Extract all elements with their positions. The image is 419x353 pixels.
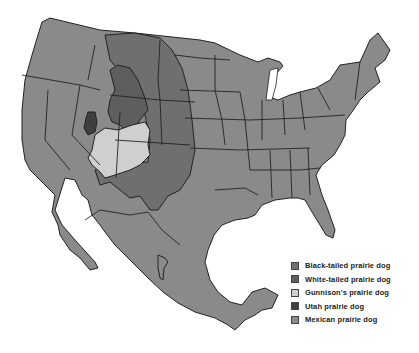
legend-label: Mexican prairie dog <box>305 315 377 324</box>
legend-label: Gunnison's prairie dog <box>305 288 389 297</box>
mexican-swatch <box>291 316 299 324</box>
legend-item-white-tailed: White-tailed prairie dog <box>291 273 391 287</box>
legend-label: White-tailed prairie dog <box>305 275 391 284</box>
map-legend: Black-tailed prairie dog White-tailed pr… <box>291 259 391 327</box>
black-tailed-swatch <box>291 262 299 270</box>
legend-item-utah: Utah prairie dog <box>291 300 391 314</box>
legend-item-mexican: Mexican prairie dog <box>291 313 391 327</box>
utah-swatch <box>291 302 299 310</box>
legend-label: Utah prairie dog <box>305 302 364 311</box>
legend-item-black-tailed: Black-tailed prairie dog <box>291 259 391 273</box>
legend-item-gunnison: Gunnison's prairie dog <box>291 286 391 300</box>
legend-label: Black-tailed prairie dog <box>305 261 390 270</box>
white-tailed-swatch <box>291 275 299 283</box>
gunnison-swatch <box>291 289 299 297</box>
